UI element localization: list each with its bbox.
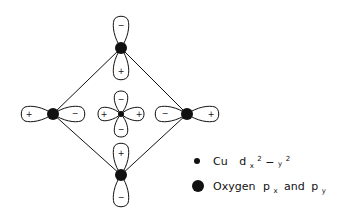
sign-cu-bottom: − bbox=[118, 125, 125, 134]
sign-right-inner: − bbox=[162, 109, 169, 118]
oxygen-left: + − bbox=[21, 106, 85, 121]
sign-cu-top: − bbox=[118, 95, 125, 104]
legend-cu-sub-x: x bbox=[250, 162, 254, 170]
bond-top-left bbox=[53, 48, 121, 114]
oxygen-right: − + bbox=[155, 106, 219, 121]
sign-bottom-outer: − bbox=[118, 193, 125, 202]
legend-cu-sub-y: y bbox=[278, 160, 282, 168]
legend-oxygen-p2: p bbox=[311, 180, 318, 193]
bond-right-bottom bbox=[121, 114, 187, 175]
cuo2-orbital-diagram: − + + − + − − + − − + + bbox=[0, 0, 342, 219]
legend-oxygen-name: Oxygen bbox=[213, 180, 255, 193]
bond-left-bottom bbox=[53, 114, 121, 175]
legend-item-cu: Cu d x 2 − y 2 bbox=[194, 151, 290, 171]
legend-cu-sup-1: 2 bbox=[257, 155, 261, 163]
legend-cu-name: Cu bbox=[213, 155, 228, 168]
small-dot-icon bbox=[194, 158, 200, 164]
sign-top-outer: − bbox=[118, 21, 125, 30]
large-dot-icon bbox=[192, 180, 204, 192]
oxygen-bottom: + − bbox=[113, 143, 128, 207]
sign-left-outer: + bbox=[26, 110, 33, 119]
oxygen-atom-icon bbox=[181, 108, 193, 120]
oxygen-atom-icon bbox=[47, 108, 59, 120]
sign-cu-left: + bbox=[101, 110, 108, 119]
oxygen-atom-icon bbox=[115, 169, 127, 181]
legend-cu-orbital: d bbox=[239, 155, 246, 168]
legend-cu-sup-2: 2 bbox=[286, 155, 290, 163]
legend-oxygen-label: Oxygen p x and p y bbox=[213, 180, 326, 196]
bond-top-right bbox=[121, 48, 187, 114]
sign-top-inner: + bbox=[118, 67, 125, 76]
legend-item-oxygen: Oxygen p x and p y bbox=[192, 180, 326, 196]
cu-center: − − + + bbox=[98, 91, 144, 137]
cu-atom-icon bbox=[118, 111, 124, 117]
legend-cu-dash: − bbox=[265, 156, 274, 169]
sign-cu-right: + bbox=[136, 110, 143, 119]
oxygen-atom-icon bbox=[115, 42, 127, 54]
sign-right-outer: + bbox=[208, 110, 215, 119]
legend-cu-label: Cu d x 2 − y 2 bbox=[213, 151, 290, 171]
legend-oxygen-p1: p bbox=[263, 180, 270, 193]
sign-bottom-inner: + bbox=[118, 149, 125, 158]
legend-oxygen-p2-sub: y bbox=[322, 187, 326, 195]
legend-oxygen-p1-sub: x bbox=[273, 187, 277, 195]
sign-left-inner: − bbox=[72, 109, 79, 118]
legend-oxygen-conj: and bbox=[284, 180, 305, 193]
legend: Cu d x 2 − y 2 Oxygen p x and p y bbox=[192, 151, 326, 196]
oxygen-top: − + bbox=[113, 16, 128, 80]
